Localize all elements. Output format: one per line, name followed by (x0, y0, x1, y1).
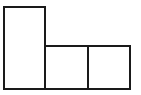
square-2 (87, 45, 131, 90)
tall-rect (3, 6, 46, 90)
square-1 (44, 45, 89, 90)
